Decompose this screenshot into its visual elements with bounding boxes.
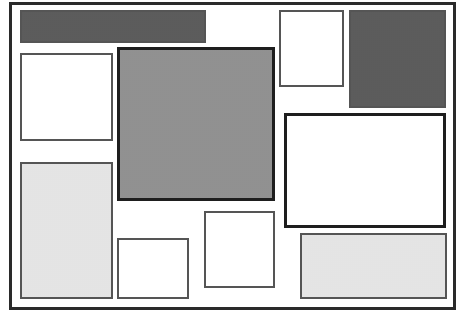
left-tall-light-box: [20, 162, 113, 299]
top-bar: [20, 10, 206, 43]
center-large-box: [117, 47, 275, 201]
bottom-right-light-box: [300, 233, 447, 299]
middle-bottom-white-box: [204, 211, 275, 288]
bottom-small-white-box: [117, 238, 189, 299]
left-white-box: [20, 53, 113, 141]
top-right-dark-box: [349, 10, 446, 108]
top-right-white-box: [279, 10, 344, 87]
right-white-thick-box: [284, 113, 446, 228]
